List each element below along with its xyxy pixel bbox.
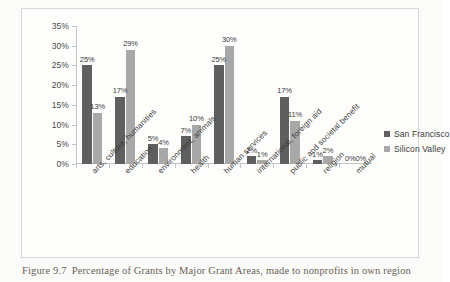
bar-value-label: 5% [148, 134, 159, 143]
x-axis-tick [175, 164, 176, 168]
bar-value-label: 30% [222, 35, 237, 44]
legend-item: Silicon Valley [384, 141, 450, 156]
chart-frame: 0%5%10%15%20%25%30%35% 25%13%17%29%5%4%7… [21, 8, 419, 258]
bar-value-label: 25% [80, 55, 95, 64]
bar-value-label: 0% [345, 154, 356, 163]
y-axis-tick [72, 65, 76, 66]
x-axis-tick [208, 164, 209, 168]
bar-silicon-valley [126, 50, 136, 164]
x-axis-tick [339, 164, 340, 168]
y-axis-tick [72, 46, 76, 47]
legend-label: Silicon Valley [394, 144, 445, 154]
y-axis-tick [72, 26, 76, 27]
bar-san-francisco [313, 160, 323, 164]
bar-san-francisco [247, 156, 257, 164]
bar-value-label: 4% [158, 138, 169, 147]
y-axis-tick-label: 20% [52, 80, 69, 90]
x-axis-tick [109, 164, 110, 168]
figure-caption: Figure 9.7Percentage of Grants by Major … [22, 265, 441, 276]
legend-swatch-icon [384, 146, 390, 152]
chart-legend: San Francisco Silicon Valley [384, 126, 450, 156]
y-axis-tick [72, 125, 76, 126]
x-axis-tick [273, 164, 274, 168]
legend-label: San Francisco [394, 129, 450, 139]
bar-value-label: 11% [288, 110, 302, 119]
y-axis-line [76, 26, 77, 164]
y-axis-tick-label: 5% [57, 139, 70, 149]
y-axis-tick-label: 35% [52, 21, 69, 31]
y-axis-tick-label: 15% [52, 100, 69, 110]
legend-item: San Francisco [384, 126, 450, 141]
y-axis-tick-label: 10% [52, 120, 69, 130]
x-axis-tick [240, 164, 241, 168]
bar-value-label: 29% [123, 39, 138, 48]
y-axis-tick-label: 25% [52, 60, 69, 70]
y-axis-tick [72, 105, 76, 106]
bar-san-francisco [214, 65, 224, 164]
legend-swatch-icon [384, 131, 390, 137]
figure-number: Figure 9.7 [22, 265, 67, 276]
y-axis-tick-label: 30% [52, 41, 69, 51]
figure-caption-text: Percentage of Grants by Major Grant Area… [72, 265, 411, 276]
bar-value-label: 2% [323, 146, 334, 155]
bar-value-label: 17% [277, 86, 292, 95]
bar-value-label: 17% [113, 86, 128, 95]
x-axis-tick [306, 164, 307, 168]
bar-value-label: 13% [90, 102, 105, 111]
bar-value-label: 25% [211, 55, 226, 64]
x-axis-tick [76, 164, 77, 168]
bar-san-francisco [82, 65, 92, 164]
y-axis-tick [72, 144, 76, 145]
x-axis-tick [142, 164, 143, 168]
y-axis-tick [72, 85, 76, 86]
y-axis-tick-label: 0% [57, 159, 70, 169]
